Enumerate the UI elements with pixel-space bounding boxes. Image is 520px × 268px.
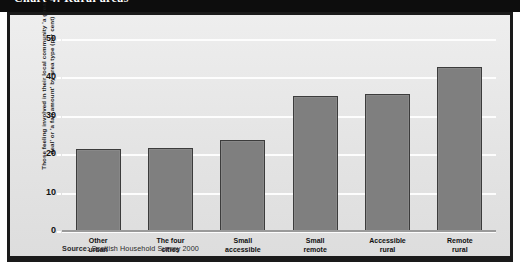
source-label: Source: <box>62 244 89 253</box>
x-axis-category-label: Accessible rural <box>351 237 423 254</box>
gridline-50: 50 <box>62 39 496 41</box>
x-axis-line <box>62 230 496 232</box>
gridline-30: 30 <box>62 116 496 118</box>
chart-figure: Chart 4: Rural areas Those feeling invol… <box>0 0 520 268</box>
x-axis-category-label: Small remote <box>279 237 351 254</box>
tick-mark-30 <box>57 116 61 118</box>
chart-panel: Those feeling involved in their local co… <box>7 12 513 262</box>
page-title: Chart 4: Rural areas <box>14 0 129 6</box>
source-value: Scottish Household Survey 2000 <box>92 244 199 253</box>
tick-mark-50 <box>57 39 61 41</box>
gridline-20: 20 <box>62 154 496 156</box>
footer-rule <box>10 256 510 259</box>
chart-title-band: Chart 4: Rural areas <box>0 0 520 12</box>
plot-area: 01020304050 Other urbanThe four citiesSm… <box>62 40 496 232</box>
x-axis-category-label: Remote rural <box>424 237 496 254</box>
y-tick-label: 10 <box>46 187 56 197</box>
bar <box>220 140 265 232</box>
tick-mark-0 <box>57 231 61 233</box>
bar <box>76 149 121 232</box>
bar <box>365 94 410 232</box>
y-tick-label: 30 <box>46 110 56 120</box>
source-note: Source: Scottish Household Survey 2000 <box>62 244 199 253</box>
gridline-10: 10 <box>62 193 496 195</box>
x-axis-category-label: Small accessible <box>207 237 279 254</box>
y-tick-label: 40 <box>46 71 56 81</box>
tick-mark-20 <box>57 154 61 156</box>
tick-mark-10 <box>57 193 61 195</box>
bar <box>437 67 482 232</box>
gridline-40: 40 <box>62 77 496 79</box>
bar <box>148 148 193 232</box>
y-tick-label: 20 <box>46 148 56 158</box>
bar <box>293 96 338 232</box>
tick-mark-40 <box>57 77 61 79</box>
y-tick-label: 0 <box>51 225 56 235</box>
y-tick-label: 50 <box>46 33 56 43</box>
